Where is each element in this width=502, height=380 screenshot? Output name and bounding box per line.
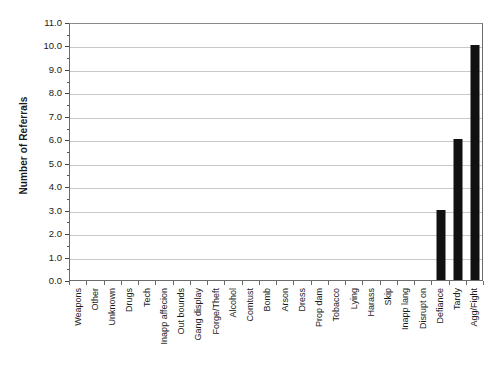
x-axis-category-labels: WeaponsOtherUnknownDrugsTechInapp affeci… xyxy=(69,288,483,380)
x-axis-category-label-text: Inapp affecion xyxy=(159,288,168,344)
x-axis-category-label-text: Agg/Fight xyxy=(470,288,479,327)
x-axis-tick xyxy=(380,281,381,285)
y-axis-tick-labels: 0.01.02.03.04.05.06.07.08.09.010.011.0 xyxy=(28,23,62,281)
bar-slot xyxy=(467,24,484,280)
bar-slot xyxy=(432,24,449,280)
x-axis-tick xyxy=(328,281,329,285)
x-axis-category-label: Alcohol xyxy=(224,288,241,380)
x-axis-tick xyxy=(207,281,208,285)
x-axis-category-label: Tech xyxy=(138,288,155,380)
x-axis-category-label-text: Drugs xyxy=(125,288,134,312)
x-axis-category-label-text: Gang display xyxy=(194,288,203,341)
x-axis-tick xyxy=(121,281,122,285)
x-axis-tick xyxy=(449,281,450,285)
x-axis-tick xyxy=(173,281,174,285)
y-axis-tick-label: 10.0 xyxy=(28,42,62,52)
x-axis-category-label: Tobacco xyxy=(328,288,345,380)
bar-slot xyxy=(294,24,311,280)
bar-slot xyxy=(174,24,191,280)
y-axis-tick-label: 3.0 xyxy=(28,206,62,216)
bar-slot xyxy=(363,24,380,280)
bar-slot xyxy=(105,24,122,280)
x-axis-category-label-text: Arson xyxy=(280,288,289,312)
x-axis-tick xyxy=(224,281,225,285)
x-axis-category-label: Lying xyxy=(345,288,362,380)
x-axis-tick xyxy=(311,281,312,285)
x-axis-category-label: Agg/Fight xyxy=(466,288,483,380)
x-axis-category-label-text: Unknown xyxy=(108,288,117,326)
bar-slot xyxy=(415,24,432,280)
x-axis-category-label: Prop dam xyxy=(311,288,328,380)
x-axis-tick xyxy=(362,281,363,285)
x-axis-category-label: Drugs xyxy=(121,288,138,380)
x-axis-category-label-text: Inapp lang xyxy=(401,288,410,330)
x-axis-category-label-text: Dress xyxy=(297,288,306,312)
y-axis-tick-label: 9.0 xyxy=(28,65,62,75)
bar-slot xyxy=(139,24,156,280)
x-axis-category-label-text: Tech xyxy=(142,288,151,307)
x-axis-tick xyxy=(483,281,484,285)
plot-area xyxy=(69,23,483,281)
x-axis-category-label: Gang display xyxy=(190,288,207,380)
x-axis-tick xyxy=(431,281,432,285)
x-axis-category-label-text: Tobacco xyxy=(332,288,341,322)
x-axis-category-label: Other xyxy=(86,288,103,380)
x-axis-category-label: Bomb xyxy=(259,288,276,380)
bar-slot xyxy=(122,24,139,280)
bar xyxy=(471,45,480,280)
x-axis-tick xyxy=(466,281,467,285)
bar-slot xyxy=(381,24,398,280)
x-axis-category-label: Comtust xyxy=(242,288,259,380)
bars-layer xyxy=(70,24,482,280)
y-axis-tick-label: 5.0 xyxy=(28,159,62,169)
x-axis-category-label-text: Prop dam xyxy=(315,288,324,327)
y-axis-tick-label: 11.0 xyxy=(28,18,62,28)
x-axis-ticks xyxy=(69,281,483,286)
y-axis-tick-label: 2.0 xyxy=(28,229,62,239)
x-axis-tick xyxy=(293,281,294,285)
x-axis-category-label-text: Skip xyxy=(384,288,393,306)
bar xyxy=(454,139,463,280)
bar-slot xyxy=(450,24,467,280)
y-axis-tick-label: 8.0 xyxy=(28,89,62,99)
x-axis-category-label: Tardy xyxy=(449,288,466,380)
x-axis-category-label-text: Tardy xyxy=(453,288,462,310)
bar-slot xyxy=(87,24,104,280)
y-axis-tick-label: 7.0 xyxy=(28,112,62,122)
x-axis-tick xyxy=(259,281,260,285)
x-axis-category-label: Inapp affecion xyxy=(155,288,172,380)
bar-slot xyxy=(191,24,208,280)
bar-chart: Number of Referrals 0.01.02.03.04.05.06.… xyxy=(0,0,502,380)
bar-slot xyxy=(156,24,173,280)
bar-slot xyxy=(260,24,277,280)
y-axis-tick-label: 6.0 xyxy=(28,136,62,146)
y-axis-title-text: Number of Referrals xyxy=(18,96,29,194)
bar-slot xyxy=(346,24,363,280)
x-axis-category-label-text: Lying xyxy=(349,288,358,309)
x-axis-tick xyxy=(276,281,277,285)
x-axis-category-label: Inapp lang xyxy=(397,288,414,380)
x-axis-category-label-text: Harass xyxy=(366,288,375,317)
x-axis-category-label-text: Other xyxy=(90,288,99,311)
x-axis-category-label: Disrupt on xyxy=(414,288,431,380)
x-axis-tick xyxy=(190,281,191,285)
x-axis-category-label-text: Comtust xyxy=(246,288,255,322)
x-axis-category-label-text: Bomb xyxy=(263,288,272,312)
bar-slot xyxy=(225,24,242,280)
x-axis-category-label-text: Weapons xyxy=(73,288,82,326)
y-axis-tick-label: 1.0 xyxy=(28,253,62,263)
bar-slot xyxy=(208,24,225,280)
x-axis-tick xyxy=(86,281,87,285)
x-axis-category-label: Skip xyxy=(380,288,397,380)
x-axis-category-label: Out bounds xyxy=(173,288,190,380)
x-axis-category-label: Forge/Theft xyxy=(207,288,224,380)
y-axis-tick-label: 0.0 xyxy=(28,276,62,286)
x-axis-category-label: Arson xyxy=(276,288,293,380)
x-axis-category-label-text: Disrupt on xyxy=(418,288,427,329)
bar-slot xyxy=(277,24,294,280)
x-axis-category-label: Dress xyxy=(293,288,310,380)
x-axis-tick xyxy=(104,281,105,285)
x-axis-tick xyxy=(69,281,70,285)
bar-slot xyxy=(329,24,346,280)
x-axis-tick xyxy=(345,281,346,285)
